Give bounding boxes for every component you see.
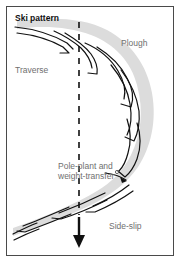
ski-tracks-traverse-upper [15,27,97,74]
ski-pattern-diagram [7,7,173,255]
pole-plant-dot-marker [115,170,118,173]
ski-pattern-figure: Ski pattern Plough Traverse Pole-plant a… [0,0,180,262]
direction-arrow [73,217,85,248]
page-title: Ski pattern [15,13,59,23]
direction-arrow-head [73,235,85,248]
track-line-2 [17,33,69,53]
